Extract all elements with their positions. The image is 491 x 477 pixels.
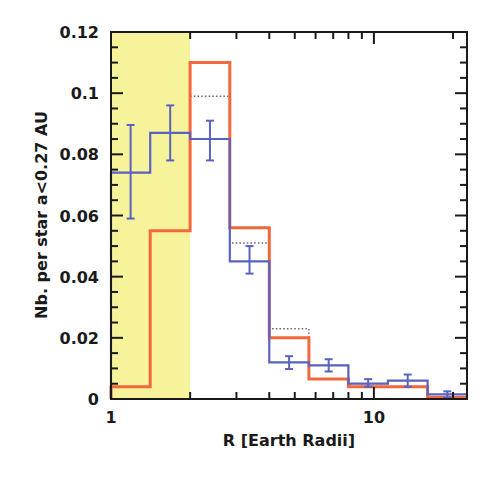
y-tick-label: 0.02 <box>60 329 99 348</box>
y-axis-tick-labels: 00.020.040.060.080.10.12 <box>60 23 99 409</box>
y-tick-label: 0.08 <box>60 145 99 164</box>
y-tick-label: 0.12 <box>60 23 99 42</box>
y-tick-label: 0.1 <box>71 84 99 103</box>
error-bar <box>206 121 214 161</box>
x-axis-tick-labels: 110 <box>105 408 385 427</box>
x-tick-label: 10 <box>363 408 385 427</box>
y-tick-label: 0.04 <box>60 268 99 287</box>
histogram-chart: 00.020.040.060.080.10.12 110 R [Earth Ra… <box>0 0 491 477</box>
y-axis-title: Nb. per star a<0.27 AU <box>32 111 51 319</box>
x-axis-title: R [Earth Radii] <box>223 431 355 450</box>
error-bar <box>246 246 254 274</box>
y-tick-label: 0 <box>88 390 99 409</box>
x-tick-label: 1 <box>105 408 116 427</box>
y-tick-label: 0.06 <box>60 207 99 226</box>
chart-svg: 00.020.040.060.080.10.12 110 R [Earth Ra… <box>0 0 491 477</box>
